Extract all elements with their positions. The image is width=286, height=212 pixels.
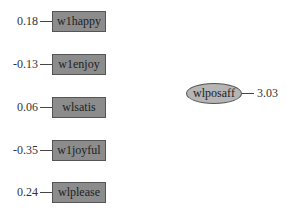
- indicator-box: wlsatis: [52, 97, 106, 118]
- connector-line: [40, 107, 52, 108]
- indicator-box: w1enjoy: [52, 54, 106, 75]
- intercept-value: -0.13: [0, 57, 38, 71]
- indicator-box: w1joyful: [52, 140, 106, 161]
- connector-line: [40, 21, 52, 22]
- connector-line: [242, 93, 254, 94]
- intercept-value: -0.35: [0, 143, 38, 157]
- intercept-value: 0.18: [0, 14, 38, 28]
- connector-line: [40, 192, 52, 193]
- intercept-value: 0.06: [0, 100, 38, 114]
- intercept-value: 0.24: [0, 185, 38, 199]
- indicator-box: wlplease: [52, 182, 106, 203]
- indicator-box: w1happy: [52, 11, 106, 32]
- latent-variable-ellipse: wlposaff: [186, 83, 242, 104]
- connector-line: [40, 64, 52, 65]
- latent-variance-value: 3.03: [257, 86, 278, 100]
- connector-line: [40, 150, 52, 151]
